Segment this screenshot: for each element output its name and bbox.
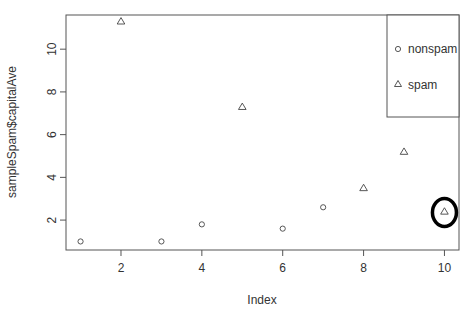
x-axis: 246810 xyxy=(118,250,452,275)
y-tick-label: 8 xyxy=(45,88,59,95)
y-tick-label: 2 xyxy=(45,216,59,223)
nonspam-point xyxy=(199,222,204,227)
spam-point xyxy=(117,18,125,24)
spam-point xyxy=(400,148,408,154)
y-axis-title: sampleSpam$capitalAve xyxy=(5,66,19,198)
nonspam-point xyxy=(280,226,285,231)
nonspam-point xyxy=(78,239,83,244)
annotations xyxy=(432,199,456,227)
legend-label-nonspam: nonspam xyxy=(408,42,457,56)
y-tick-label: 6 xyxy=(45,131,59,138)
spam-point xyxy=(360,184,368,190)
nonspam-point xyxy=(321,205,326,210)
legend: nonspam spam xyxy=(387,15,459,117)
spam-point xyxy=(238,103,246,109)
nonspam-point xyxy=(159,239,164,244)
legend-box xyxy=(387,15,459,117)
x-axis-title: Index xyxy=(247,293,276,307)
x-tick-label: 4 xyxy=(199,261,206,275)
spam-point xyxy=(441,208,449,214)
x-tick-label: 8 xyxy=(360,261,367,275)
y-axis: 246810 xyxy=(45,42,66,223)
y-tick-label: 4 xyxy=(45,174,59,181)
highlight-ellipse xyxy=(432,199,456,227)
legend-label-spam: spam xyxy=(408,78,437,92)
x-tick-label: 10 xyxy=(438,261,452,275)
scatter-chart: 246810 246810 Index sampleSpam$capitalAv… xyxy=(0,0,473,321)
x-tick-label: 2 xyxy=(118,261,125,275)
x-tick-label: 6 xyxy=(279,261,286,275)
y-tick-label: 10 xyxy=(45,42,59,56)
